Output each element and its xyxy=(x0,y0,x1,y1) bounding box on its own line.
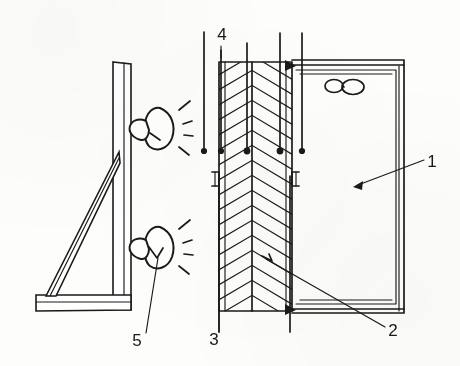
bracket-vertical-post xyxy=(113,62,131,310)
support-bracket xyxy=(36,62,131,311)
callout-label-2: 2 xyxy=(388,321,397,340)
diagram-canvas: 1 2 3 4 5 xyxy=(0,0,460,366)
callout-label-1: 1 xyxy=(427,152,436,171)
lamp-lower xyxy=(130,220,193,274)
callout-leaders xyxy=(146,46,424,333)
lamp-upper xyxy=(130,101,193,155)
technical-diagram: 1 2 3 4 5 xyxy=(0,0,460,366)
enclosure-frame xyxy=(292,60,404,313)
hatched-column xyxy=(210,53,300,339)
column-hatch-left xyxy=(210,53,256,335)
column-clip-left xyxy=(212,172,219,186)
column-clip-right xyxy=(292,172,299,186)
fan-propeller xyxy=(325,80,364,95)
lamp-lower-rays xyxy=(179,220,193,274)
callout-label-3: 3 xyxy=(209,330,218,349)
callout-label-4: 4 xyxy=(217,25,226,44)
lamp-upper-rays xyxy=(179,101,193,155)
bracket-base xyxy=(36,295,131,311)
bracket-diagonal-brace xyxy=(46,152,120,296)
callout-label-5: 5 xyxy=(132,331,141,350)
